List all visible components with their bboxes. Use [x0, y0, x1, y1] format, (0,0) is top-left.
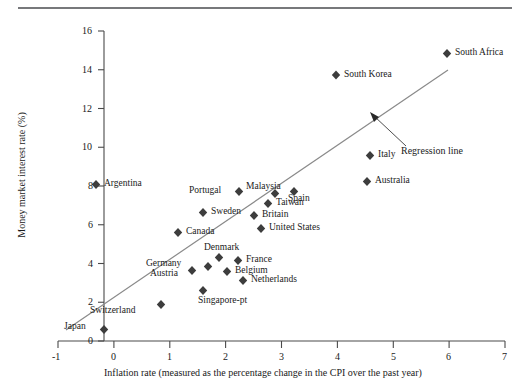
marker-sweden [199, 208, 207, 217]
point-label-italy: Italy [378, 150, 395, 160]
point-label-malaysia: Malaysia [246, 182, 281, 192]
regression-annotation-arrowhead [370, 112, 379, 122]
x-tick-label-3: 3 [279, 352, 284, 362]
x-tick-label-2: 2 [223, 352, 228, 362]
x-tick-label-1: 1 [167, 352, 172, 362]
marker-portugal-malaysia [235, 187, 243, 196]
marker-netherlands [239, 276, 247, 285]
marker-japan [100, 325, 108, 334]
point-label-united-states: United States [269, 223, 320, 233]
point-label-france: France [246, 255, 272, 265]
marker-united-states [257, 224, 265, 233]
marker-canada [174, 228, 182, 237]
y-tick-label-0: 0 [88, 336, 93, 346]
point-label-taiwan: Taiwan [276, 198, 304, 208]
point-label-austria: Austria [150, 269, 178, 279]
y-tick-label-14: 14 [82, 65, 92, 75]
marker-denmark [215, 253, 223, 262]
point-label-japan: Japan [64, 322, 86, 332]
x-tick-label-4: 4 [335, 352, 340, 362]
marker-britain [250, 211, 258, 220]
x-tick-label-0: 0 [111, 352, 116, 362]
regression-annotation-leader [374, 116, 406, 146]
point-label-canada: Canada [186, 227, 215, 237]
marker-italy [366, 151, 374, 160]
x-tick-label-neg1: -1 [52, 352, 60, 362]
marker-south-korea [332, 71, 340, 80]
y-tick-label-6: 6 [88, 220, 93, 230]
y-axis-title: Money market interest rate (%) [17, 85, 27, 265]
marker-south-africa [443, 49, 451, 58]
marker-belgium [223, 267, 231, 276]
y-tick-label-12: 12 [82, 104, 92, 114]
point-label-argentina: Argentina [104, 179, 142, 189]
point-label-singapore: Singapore-pt [198, 296, 247, 306]
point-label-portugal: Portugal [189, 186, 221, 196]
regression-line-annotation-label: Regression line [401, 146, 463, 156]
y-tick-label-10: 10 [82, 142, 92, 152]
point-label-netherlands: Netherlands [251, 275, 297, 285]
marker-argentina [92, 180, 100, 189]
point-label-south-africa: South Africa [455, 48, 503, 58]
point-label-south-korea: South Korea [344, 70, 392, 80]
point-label-sweden: Sweden [211, 207, 241, 217]
marker-france [234, 256, 242, 265]
marker-mid-cluster [204, 262, 212, 271]
point-label-switzerland: Switzerland [90, 306, 135, 316]
point-label-denmark: Denmark [204, 243, 239, 253]
x-axis-ticks [58, 341, 505, 348]
regression-line [66, 70, 448, 330]
y-tick-label-8: 8 [88, 181, 93, 191]
x-axis-title: Inflation rate (measured as the percenta… [0, 368, 526, 378]
x-tick-label-5: 5 [391, 352, 396, 362]
point-label-britain: Britain [262, 210, 288, 220]
y-tick-label-4: 4 [88, 259, 93, 269]
marker-switzerland [157, 300, 165, 309]
y-tick-label-16: 16 [82, 26, 92, 36]
marker-germany-austria [188, 266, 196, 275]
data-point-markers [92, 49, 451, 334]
marker-taiwan [264, 199, 272, 208]
marker-singapore [199, 286, 207, 295]
x-tick-label-6: 6 [446, 352, 451, 362]
marker-australia [363, 177, 371, 186]
x-tick-label-7: 7 [502, 352, 507, 362]
scatter-chart-figure: 16 14 12 10 8 6 4 2 0 -1 0 1 2 3 4 5 6 7… [0, 0, 526, 391]
point-label-australia: Australia [375, 176, 410, 186]
chart-canvas [0, 0, 526, 391]
